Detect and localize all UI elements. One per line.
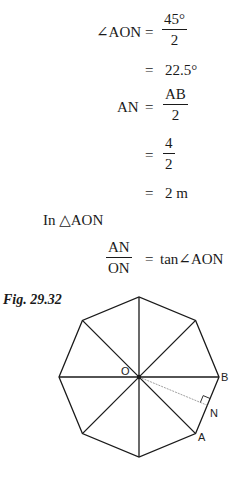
label-b: B [221,371,228,383]
octagon-figure: O B N A [0,0,242,479]
label-a: A [198,431,206,443]
center-point [137,375,141,379]
label-n: N [210,407,218,419]
label-o: O [121,365,130,377]
perpendicular-on [139,377,207,405]
